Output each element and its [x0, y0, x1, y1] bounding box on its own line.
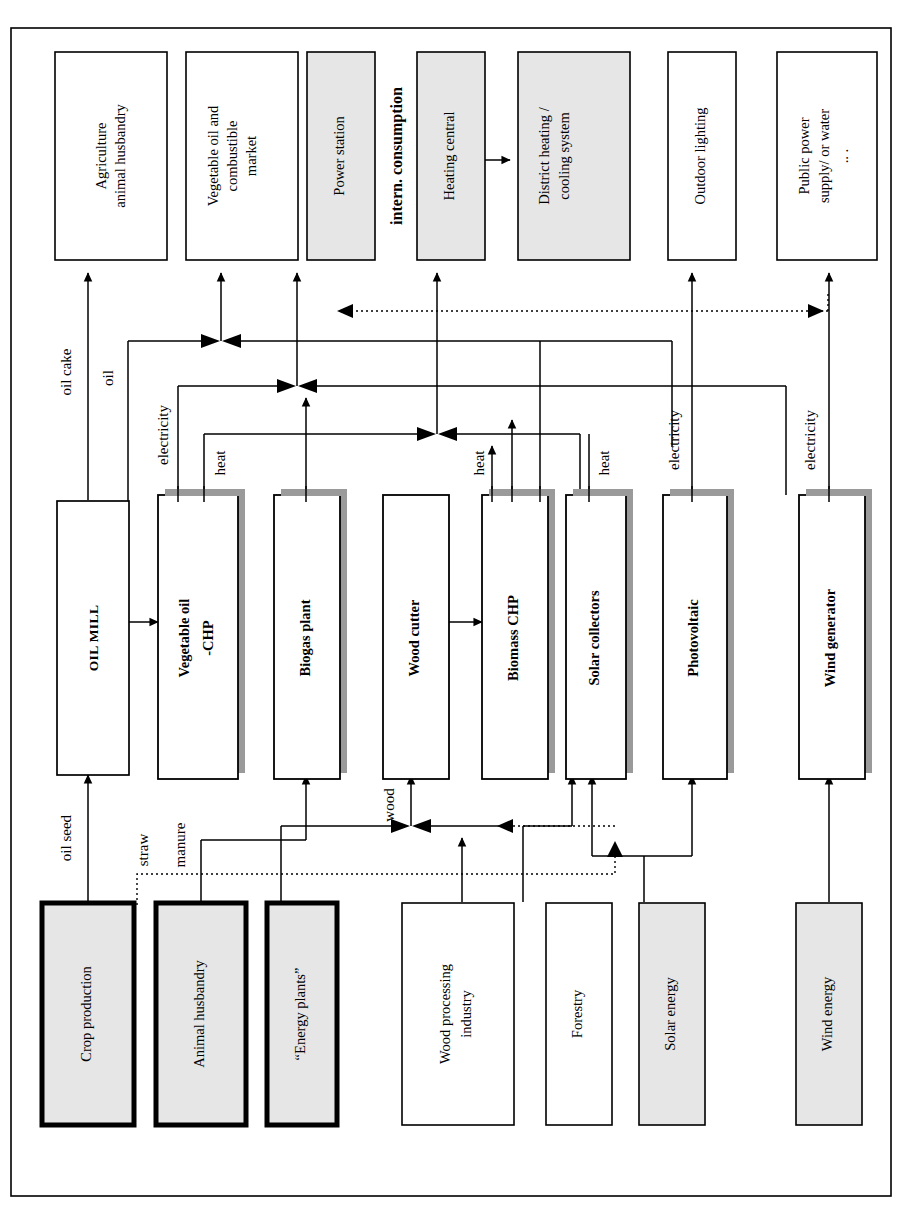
- consumer-heating-central[interactable]: Heating central: [417, 52, 485, 260]
- flow-label-straw: straw: [135, 834, 151, 867]
- energy-flow-diagram: Agriculture animal husbandry Vegetable o…: [0, 0, 904, 1224]
- consumer-vegetable-oil-market[interactable]: Vegetable oil and combustible market: [186, 52, 298, 260]
- intern-consumption-label: intern. consumption: [388, 87, 406, 225]
- consumer-box[interactable]: [518, 52, 630, 260]
- converter-label-line1: Biogas plant: [297, 599, 313, 676]
- flow-label-heat-1: heat: [212, 450, 228, 476]
- consumer-label-line1: Agriculture: [93, 123, 109, 190]
- strip-wind-generator: [806, 489, 872, 496]
- flow-label-electricity-2: electricity: [666, 410, 682, 470]
- converter-box[interactable]: [158, 495, 238, 779]
- consumer-label-line1: District heating /: [536, 106, 552, 204]
- source-animal-husbandry[interactable]: Animal husbandry: [156, 903, 246, 1125]
- consumer-label-line1: Vegetable oil and: [205, 105, 221, 206]
- consumer-label-line1: Power station: [331, 116, 347, 196]
- converter-label-line2: -CHP: [200, 620, 216, 656]
- source-wind-energy[interactable]: Wind energy: [796, 903, 862, 1125]
- flow-label-electricity-1: electricity: [155, 405, 171, 465]
- source-label-line1: Animal husbandry: [191, 959, 207, 1067]
- converter-biomass-chp[interactable]: Biomass CHP: [482, 489, 555, 779]
- strip-photovoltaic: [670, 489, 734, 496]
- source-crop-production[interactable]: Crop production: [42, 903, 134, 1125]
- flow-label-heat-3: heat: [596, 450, 612, 476]
- converter-label-line1: Biomass CHP: [505, 595, 521, 681]
- converter-solar-collectors[interactable]: Solar collectors: [566, 489, 633, 779]
- consumer-label-line1: Public power: [796, 117, 812, 194]
- flow-label-heat-2: heat: [471, 450, 487, 476]
- source-label-line1: “Energy plants”: [292, 968, 308, 1061]
- converter-biogas-plant[interactable]: Biogas plant: [274, 489, 347, 779]
- source-label-line1: Solar energy: [662, 977, 678, 1051]
- diagram-canvas: Agriculture animal husbandry Vegetable o…: [0, 0, 904, 1224]
- converter-oil-mill[interactable]: OIL MILL: [57, 501, 129, 775]
- converter-wind-generator[interactable]: Wind generator: [799, 489, 872, 779]
- source-energy-plants[interactable]: “Energy plants”: [267, 903, 337, 1125]
- consumer-label-line3: .. .: [835, 149, 851, 164]
- converter-label-line1: OIL MILL: [86, 605, 101, 672]
- source-solar-energy[interactable]: Solar energy: [639, 903, 705, 1125]
- flow-label-manure: manure: [172, 822, 188, 867]
- converter-label-line1: Vegetable oil: [176, 599, 192, 678]
- consumer-public-power[interactable]: Public power supply/ or water .. .: [777, 52, 877, 260]
- flow-label-oil-seed: oil seed: [58, 814, 74, 861]
- source-label-line1: Wood processing: [437, 964, 453, 1064]
- source-label-line2: industry: [458, 989, 474, 1037]
- flow-label-electricity-3: electricity: [802, 410, 818, 470]
- converter-wood-cutter[interactable]: Wood cutter: [383, 495, 449, 779]
- consumer-label-line2: cooling system: [556, 112, 572, 200]
- source-label-line1: Forestry: [569, 989, 585, 1038]
- strip-biomass-chp: [489, 489, 555, 496]
- converter-label-line1: Wind generator: [822, 588, 838, 687]
- consumer-agriculture[interactable]: Agriculture animal husbandry: [55, 52, 167, 260]
- source-label-line1: Wind energy: [819, 976, 835, 1051]
- source-forestry[interactable]: Forestry: [546, 903, 612, 1125]
- consumer-label-line1: Outdoor lighting: [692, 107, 708, 204]
- converter-label-line1: Solar collectors: [586, 590, 602, 686]
- consumer-label-line2: supply/ or water: [816, 109, 832, 203]
- converter-label-line1: Photovoltaic: [685, 599, 701, 677]
- consumer-label-line1: Heating central: [441, 112, 457, 201]
- converter-photovoltaic[interactable]: Photovoltaic: [663, 489, 734, 779]
- flow-label-wood: wood: [381, 788, 397, 822]
- strip-vegetable-oil-chp: [165, 489, 245, 496]
- consumer-power-station[interactable]: Power station: [307, 52, 375, 260]
- consumer-box[interactable]: [186, 52, 298, 260]
- converter-label-line1: Wood cutter: [406, 599, 422, 676]
- consumer-label-line3: market: [243, 136, 259, 176]
- consumer-box[interactable]: [55, 52, 167, 260]
- consumer-label-line2: combustible: [224, 121, 240, 192]
- consumer-outdoor-lighting[interactable]: Outdoor lighting: [668, 52, 736, 260]
- source-wood-processing-industry[interactable]: Wood processing industry: [402, 903, 514, 1125]
- converter-vegetable-oil-chp[interactable]: Vegetable oil -CHP: [158, 489, 245, 779]
- flow-label-oil-cake: oil cake: [58, 348, 74, 395]
- flow-label-oil: oil: [100, 370, 116, 386]
- consumer-district-heating[interactable]: District heating / cooling system: [518, 52, 630, 260]
- source-label-line1: Crop production: [78, 966, 94, 1062]
- strip-biogas-plant: [281, 489, 347, 496]
- strip-solar-collectors: [573, 489, 633, 496]
- consumer-label-line2: animal husbandry: [112, 104, 128, 208]
